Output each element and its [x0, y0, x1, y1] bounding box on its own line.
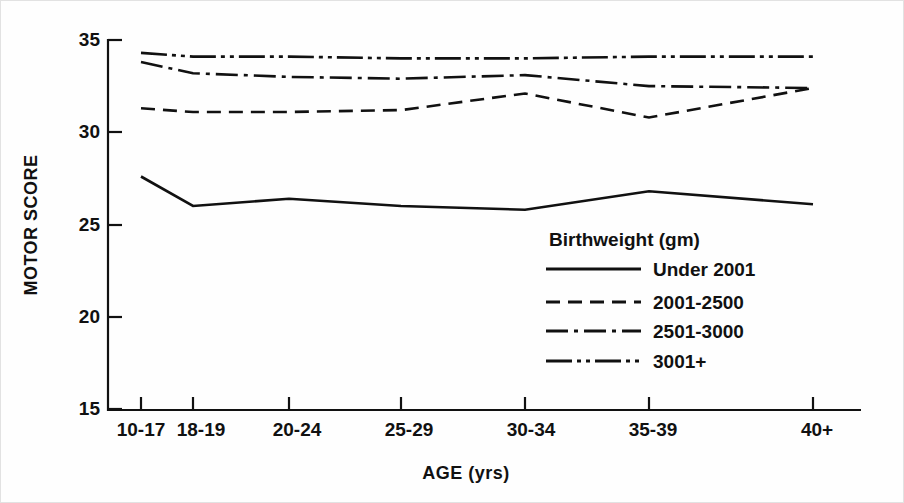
y-tick-label-35: 35 — [79, 29, 101, 50]
legend-entry-2: 2501-3000 — [546, 321, 744, 342]
x-axis-title: AGE (yrs) — [422, 463, 510, 483]
y-tick-label-20: 20 — [79, 306, 100, 327]
x-tick-label-1: 18-19 — [177, 419, 226, 440]
x-tick-label-4: 30-34 — [507, 419, 556, 440]
y-tick-label-30: 30 — [79, 121, 100, 142]
legend-label-2: 2501-3000 — [653, 321, 744, 342]
x-tick-label-6: 40+ — [801, 419, 833, 440]
legend-entry-0: Under 2001 — [546, 259, 756, 280]
line-chart: 35 30 25 20 15 10-17 18-19 20-24 25-29 3… — [1, 1, 904, 503]
series-group — [141, 53, 813, 210]
series-line-2501-3000 — [141, 62, 813, 88]
chart-legend: Birthweight (gm) Under 2001 2001-2500 25… — [546, 229, 756, 372]
y-axis-title: MOTOR SCORE — [21, 154, 41, 295]
figure-container: 35 30 25 20 15 10-17 18-19 20-24 25-29 3… — [0, 0, 904, 503]
legend-entry-1: 2001-2500 — [546, 292, 744, 313]
x-tick-label-0: 10-17 — [117, 419, 166, 440]
y-axis-ticks — [108, 40, 122, 409]
y-tick-labels: 35 30 25 20 15 — [79, 29, 101, 419]
legend-label-3: 3001+ — [653, 351, 706, 372]
series-line-2001-2500 — [141, 88, 813, 118]
x-tick-label-3: 25-29 — [385, 419, 434, 440]
y-tick-label-25: 25 — [79, 214, 101, 235]
axis-lines — [108, 39, 861, 410]
legend-entry-3: 3001+ — [546, 351, 706, 372]
y-tick-label-15: 15 — [79, 398, 101, 419]
legend-label-1: 2001-2500 — [653, 292, 744, 313]
x-tick-labels: 10-17 18-19 20-24 25-29 30-34 35-39 40+ — [117, 419, 833, 440]
series-line-3001 — [141, 53, 813, 59]
x-tick-label-5: 35-39 — [629, 419, 678, 440]
x-axis-ticks — [141, 397, 813, 410]
x-tick-label-2: 20-24 — [273, 419, 322, 440]
series-line-under-2001 — [141, 177, 813, 210]
legend-label-0: Under 2001 — [653, 259, 756, 280]
legend-title: Birthweight (gm) — [549, 229, 700, 250]
